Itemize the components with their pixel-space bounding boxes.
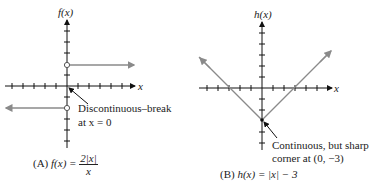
open-circle-upper — [64, 62, 69, 67]
graph-a-x-label: x — [138, 80, 143, 92]
graph-a-y-label: f(x) — [58, 6, 73, 18]
graph-a-caption: (A) f(x) = 2|x| x — [33, 152, 98, 177]
open-circle-lower — [64, 105, 69, 110]
graph-b — [199, 22, 332, 150]
graph-b-caption-text: h(x) = |x| − 3 — [237, 168, 297, 180]
graph-b-caption-prefix: (B) — [220, 168, 235, 180]
fraction-denominator: x — [79, 165, 97, 177]
graph-b-annotation-2: corner at (0, −3) — [272, 152, 344, 164]
graph-a-annotation-2: at x = 0 — [78, 116, 111, 128]
graph-a-caption-lhs: f(x) = — [51, 157, 76, 169]
graph-a-caption-prefix: (A) — [33, 157, 48, 169]
fraction-numerator: 2|x| — [79, 152, 97, 165]
graph-b-pointer — [264, 122, 277, 138]
graph-a-caption-fraction: 2|x| x — [79, 152, 97, 177]
graph-b-y-label: h(x) — [254, 8, 272, 20]
graph-b-x-label: x — [334, 82, 339, 94]
graph-b-annotation-1: Continuous, but sharp — [272, 139, 369, 151]
graph-a — [5, 20, 135, 148]
vertex-point — [260, 118, 264, 122]
graph-b-caption: (B) h(x) = |x| − 3 — [220, 168, 297, 180]
graph-a-annotation-1: Discontinuous–break — [78, 102, 171, 114]
